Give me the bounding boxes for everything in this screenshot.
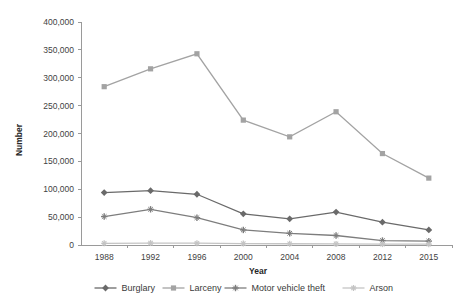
data-point-marker [333, 241, 339, 247]
legend-label: Larceny [190, 283, 223, 293]
y-tick-label: 400,000 [43, 17, 74, 27]
data-point-marker [101, 213, 107, 219]
data-point-marker [287, 134, 292, 139]
data-point-marker [147, 187, 154, 194]
y-axis-title: Number [14, 123, 24, 156]
x-tick-label: 2015 [419, 252, 438, 262]
data-point-marker [101, 240, 107, 246]
data-point-marker [241, 118, 246, 123]
data-point-marker [148, 66, 153, 71]
line-chart: 050,000100,000150,000200,000250,000300,0… [0, 0, 465, 306]
data-point-marker [286, 230, 292, 236]
data-point-marker [102, 84, 107, 89]
data-point-marker [240, 241, 246, 247]
data-point-marker [240, 210, 247, 217]
data-point-marker [333, 232, 339, 238]
data-point-marker [426, 176, 431, 181]
data-point-marker [426, 241, 432, 247]
legend-item-burglary[interactable]: Burglary [95, 283, 156, 293]
y-tick-label: 150,000 [43, 156, 74, 166]
x-tick-label: 2008 [327, 252, 346, 262]
data-point-marker [287, 241, 293, 247]
data-point-marker [286, 215, 293, 222]
data-point-marker [148, 240, 154, 246]
y-tick-label: 300,000 [43, 73, 74, 83]
x-tick-label: 1996 [187, 252, 206, 262]
x-tick-label: 1992 [141, 252, 160, 262]
data-point-marker [333, 109, 338, 114]
legend-item-arson[interactable]: Arson [343, 283, 394, 293]
legend-label: Motor vehicle theft [252, 283, 326, 293]
data-point-marker [171, 285, 176, 290]
data-point-marker [194, 51, 199, 56]
x-tick-label: 2000 [234, 252, 253, 262]
chart-canvas: 050,000100,000150,000200,000250,000300,0… [0, 0, 465, 306]
data-point-marker [102, 285, 109, 292]
data-point-marker [194, 191, 201, 198]
data-point-marker [147, 206, 153, 212]
y-tick-label: 200,000 [43, 129, 74, 139]
y-tick-label: 350,000 [43, 45, 74, 55]
data-series-group [101, 51, 432, 247]
x-tick-label: 2004 [280, 252, 299, 262]
data-point-marker [333, 209, 340, 216]
chart-legend: BurglaryLarcenyMotor vehicle theftArson [95, 283, 394, 293]
series-larceny [102, 51, 432, 181]
data-point-marker [240, 227, 246, 233]
data-point-marker [194, 240, 200, 246]
data-point-marker [379, 241, 385, 247]
data-point-marker [425, 227, 432, 234]
legend-item-larceny[interactable]: Larceny [163, 283, 223, 293]
data-point-marker [379, 219, 386, 226]
x-tick-label: 1988 [95, 252, 114, 262]
data-point-marker [232, 285, 238, 291]
legend-label: Arson [370, 283, 394, 293]
x-axis-title: Year [249, 266, 268, 276]
y-tick-label: 100,000 [43, 184, 74, 194]
legend-item-motor-vehicle-theft[interactable]: Motor vehicle theft [225, 283, 326, 293]
data-point-marker [380, 151, 385, 156]
y-tick-label: 0 [69, 240, 74, 250]
data-point-marker [351, 285, 357, 291]
y-axis: 050,000100,000150,000200,000250,000300,0… [43, 17, 81, 250]
data-point-marker [101, 189, 108, 196]
x-tick-label: 2012 [373, 252, 392, 262]
x-axis: 19881992199620002004200820122015 [81, 245, 452, 262]
y-tick-label: 50,000 [48, 212, 74, 222]
data-point-marker [194, 214, 200, 220]
y-tick-label: 250,000 [43, 101, 74, 111]
legend-label: Burglary [122, 283, 156, 293]
